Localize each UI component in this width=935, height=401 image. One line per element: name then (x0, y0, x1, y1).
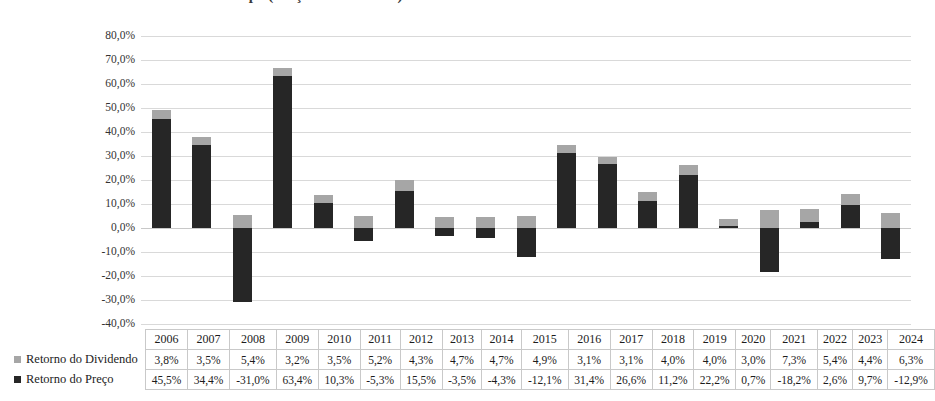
table-header-year: 2020 (736, 330, 771, 350)
y-axis-tick-label: 20,0% (79, 174, 135, 185)
legend-item-price: Retorno do Preço (0, 370, 146, 390)
chart-title-cropped: Retorno Total do Ibovespa (Preço + Divid… (0, 0, 935, 9)
table-header-year: 2011 (360, 330, 400, 350)
table-header-year: 2009 (276, 330, 318, 350)
table-cell-price: 0,7% (736, 370, 771, 390)
bar-segment-dividend (841, 194, 860, 205)
table-cell-price: -12,1% (521, 370, 568, 390)
bar-segment-price (354, 228, 373, 241)
bar-segment-dividend (598, 157, 617, 164)
bar-segment-price (273, 76, 292, 228)
legend-swatch-dividend-icon (14, 356, 21, 363)
bar-group (517, 36, 536, 324)
legend-swatch-price-icon (14, 376, 21, 383)
bar-group (233, 36, 252, 324)
bar-group (638, 36, 657, 324)
bar-segment-dividend (152, 110, 171, 119)
table-cell-dividend: 5,2% (360, 350, 400, 370)
table-corner-cell (0, 330, 146, 350)
table-cell-dividend: 4,0% (652, 350, 694, 370)
bar-segment-price (314, 203, 333, 228)
table-cell-price: -4,3% (482, 370, 522, 390)
bar-segment-price (800, 222, 819, 228)
bar-group (598, 36, 617, 324)
bar-segment-price (152, 119, 171, 228)
bar-segment-dividend (557, 145, 576, 152)
bar-segment-price (638, 201, 657, 228)
y-axis-tick-label: -10,0% (79, 246, 135, 257)
table-cell-dividend: 3,1% (610, 350, 652, 370)
bar-segment-dividend (354, 216, 373, 228)
y-axis-tick-label: -20,0% (79, 270, 135, 281)
y-axis-tick-label: 40,0% (79, 126, 135, 137)
y-axis-tick-label: 30,0% (79, 150, 135, 161)
y-axis-tick-label: 50,0% (79, 102, 135, 113)
table-cell-dividend: 5,4% (230, 350, 277, 370)
table-header-year: 2018 (652, 330, 694, 350)
table-cell-dividend: 3,1% (568, 350, 610, 370)
table-header-year: 2013 (442, 330, 482, 350)
bar-group (557, 36, 576, 324)
legend-item-dividend: Retorno do Dividendo (0, 350, 146, 370)
table-cell-price: 9,7% (853, 370, 888, 390)
table-cell-price: -5,3% (360, 370, 400, 390)
table-header-year: 2010 (318, 330, 360, 350)
table-cell-price: 2,6% (817, 370, 852, 390)
table-cell-price: 63,4% (276, 370, 318, 390)
data-table: 2006200720082009201020112012201320142015… (0, 329, 935, 390)
table-header-year: 2006 (146, 330, 188, 350)
table-header-year: 2021 (771, 330, 818, 350)
y-axis-tick-label: -30,0% (79, 294, 135, 305)
table-cell-dividend: 4,7% (482, 350, 522, 370)
bar-group (273, 36, 292, 324)
table-cell-dividend: 4,7% (442, 350, 482, 370)
table-cell-dividend: 3,8% (146, 350, 188, 370)
bar-segment-price (192, 145, 211, 228)
bar-segment-dividend (517, 216, 536, 228)
table-cell-dividend: 4,4% (853, 350, 888, 370)
bar-segment-dividend (476, 217, 495, 228)
bar-group (192, 36, 211, 324)
bar-group (881, 36, 900, 324)
bar-segment-price (233, 228, 252, 302)
table-cell-price: -31,0% (230, 370, 277, 390)
table-cell-dividend: 3,5% (318, 350, 360, 370)
bar-segment-dividend (273, 68, 292, 76)
bar-segment-dividend (395, 180, 414, 190)
table-header-year: 2015 (521, 330, 568, 350)
table-cell-dividend: 7,3% (771, 350, 818, 370)
table-header-year: 2023 (853, 330, 888, 350)
bar-segment-dividend (679, 165, 698, 175)
bar-series-group (141, 36, 911, 324)
bar-segment-dividend (719, 219, 738, 226)
bar-group (719, 36, 738, 324)
table-header-year: 2022 (817, 330, 852, 350)
table-header-year: 2024 (888, 330, 935, 350)
legend-label-dividend: Retorno do Dividendo (26, 352, 138, 366)
table-header-year: 2019 (694, 330, 736, 350)
bar-segment-price (719, 226, 738, 228)
table-cell-dividend: 4,3% (400, 350, 442, 370)
table-cell-price: 34,4% (188, 370, 230, 390)
bar-segment-price (598, 164, 617, 228)
bar-segment-price (557, 153, 576, 228)
table-header-year: 2012 (400, 330, 442, 350)
bar-group (354, 36, 373, 324)
bar-group (314, 36, 333, 324)
chart-page: Retorno Total do Ibovespa (Preço + Divid… (0, 0, 935, 401)
bar-segment-price (841, 205, 860, 228)
bar-segment-price (476, 228, 495, 238)
table-cell-price: 10,3% (318, 370, 360, 390)
table-cell-dividend: 4,0% (694, 350, 736, 370)
bar-segment-price (760, 228, 779, 272)
bar-segment-dividend (314, 195, 333, 203)
bar-segment-price (435, 228, 454, 236)
table-cell-price: -12,9% (888, 370, 935, 390)
table-header-year: 2016 (568, 330, 610, 350)
bar-segment-price (679, 175, 698, 228)
table-header-year: 2008 (230, 330, 277, 350)
bar-group (476, 36, 495, 324)
bar-segment-dividend (435, 217, 454, 228)
page-title: Retorno Total do Ibovespa (Preço + Divid… (95, 0, 402, 4)
gridline (141, 324, 911, 325)
